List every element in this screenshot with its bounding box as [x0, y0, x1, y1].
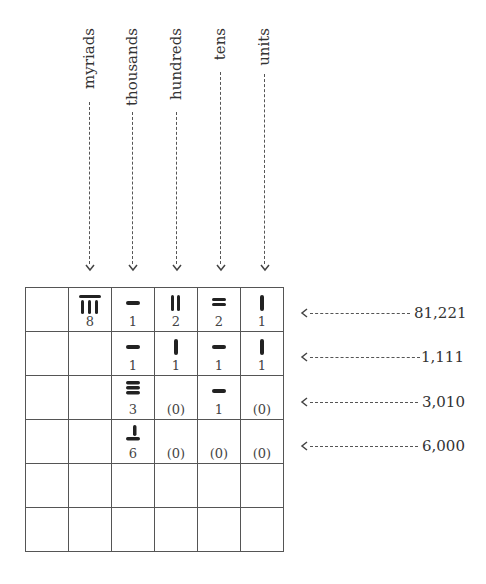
table-row: 8 1 2 2 1	[26, 288, 284, 332]
arrow-left-icon	[300, 308, 310, 318]
grid-cell	[69, 508, 112, 552]
grid-cell: (0)	[198, 420, 241, 464]
digit-label: 1	[155, 359, 197, 375]
digit-label: (0)	[241, 447, 283, 463]
row-value: 81,221	[414, 304, 467, 322]
row-value-pointer: 81,221	[300, 303, 467, 323]
grid-cell: 2	[155, 288, 198, 332]
arrow-down-icon	[260, 262, 270, 272]
grid-cell-label	[26, 464, 69, 508]
digit-label: 1	[112, 359, 154, 375]
grid-cell: (0)	[155, 420, 198, 464]
rod-numeral-1-vertical-icon	[173, 338, 179, 356]
grid-cell: 1	[155, 332, 198, 376]
rod-numeral-1-vertical-icon	[259, 338, 265, 356]
arrow-left-icon	[300, 441, 310, 451]
grid-cell: (0)	[155, 376, 198, 420]
arrow-down-icon	[172, 262, 182, 272]
table-row: 3 (0) 1 (0)	[26, 376, 284, 420]
grid-cell: (0)	[241, 376, 284, 420]
column-label-text: myriads	[80, 28, 98, 89]
column-label-text: hundreds	[167, 28, 185, 100]
grid-cell: 1	[241, 288, 284, 332]
dashed-line	[310, 446, 418, 447]
arrow-left-icon	[300, 397, 310, 407]
grid-cell	[155, 508, 198, 552]
digit-label: (0)	[155, 447, 197, 463]
grid-cell	[155, 464, 198, 508]
grid-cell: 6	[112, 420, 155, 464]
grid-cell: (0)	[241, 420, 284, 464]
table-row: 6 (0) (0) (0)	[26, 420, 284, 464]
grid-cell: 2	[198, 288, 241, 332]
pointer-line-myriads	[89, 102, 90, 264]
row-value: 1,111	[421, 348, 464, 366]
digit-label: 8	[69, 315, 111, 331]
rod-numeral-2-vertical-icon	[170, 294, 182, 312]
counting-board-grid: 8 1 2 2 1 1 1 1	[25, 287, 284, 552]
rod-numeral-1-vertical-icon	[259, 294, 265, 312]
table-row: 1 1 1 1	[26, 332, 284, 376]
grid-cell	[241, 508, 284, 552]
column-label-hundreds: hundreds	[167, 28, 187, 263]
pointer-line-tens	[220, 72, 221, 264]
grid-cell-label	[26, 376, 69, 420]
table-row	[26, 464, 284, 508]
row-value: 3,010	[422, 393, 465, 411]
arrow-down-icon	[216, 262, 226, 272]
grid-cell	[69, 376, 112, 420]
rod-numeral-1-horizontal-icon	[125, 344, 141, 350]
grid-cell	[69, 332, 112, 376]
digit-label: 2	[155, 315, 197, 331]
grid-cell	[241, 464, 284, 508]
grid-cell: 1	[198, 332, 241, 376]
column-label-thousands: thousands	[123, 28, 143, 263]
rod-numeral-8-icon	[78, 294, 102, 316]
table-row	[26, 508, 284, 552]
digit-label: 1	[112, 315, 154, 331]
grid-cell: 8	[69, 288, 112, 332]
rod-numeral-2-horizontal-icon	[211, 297, 227, 307]
row-value-pointer: 3,010	[300, 392, 465, 412]
grid-cell	[198, 464, 241, 508]
grid-cell	[112, 464, 155, 508]
digit-label: 1	[241, 315, 283, 331]
column-label-text: tens	[211, 28, 229, 60]
pointer-line-thousands	[132, 112, 133, 264]
grid-cell: 1	[112, 288, 155, 332]
dashed-line	[310, 402, 418, 403]
grid-cell	[69, 464, 112, 508]
row-value-pointer: 6,000	[300, 436, 465, 456]
digit-label: 1	[198, 403, 240, 419]
column-label-units: units	[255, 28, 275, 263]
digit-label: (0)	[155, 403, 197, 419]
rod-numeral-3-horizontal-icon	[125, 380, 141, 396]
grid-cell-label	[26, 288, 69, 332]
grid-cell	[69, 420, 112, 464]
grid-cell: 1	[198, 376, 241, 420]
grid-cell: 1	[112, 332, 155, 376]
dashed-line	[310, 357, 420, 358]
grid-cell-label	[26, 332, 69, 376]
grid-cell	[198, 508, 241, 552]
row-value: 6,000	[422, 437, 465, 455]
arrow-down-icon	[128, 262, 138, 272]
digit-label: 1	[241, 359, 283, 375]
rod-numeral-1-horizontal-icon	[211, 344, 227, 350]
column-label-text: thousands	[123, 28, 141, 106]
digit-label: (0)	[198, 447, 240, 463]
digit-label: 1	[198, 359, 240, 375]
rod-numeral-6-icon	[125, 424, 141, 442]
pointer-line-units	[264, 74, 265, 264]
column-label-tens: tens	[211, 28, 231, 263]
dashed-line	[310, 313, 410, 314]
row-value-pointer: 1,111	[300, 347, 464, 367]
rod-numeral-1-horizontal-icon	[211, 388, 227, 394]
column-label-myriads: myriads	[80, 28, 100, 263]
grid-cell-label	[26, 508, 69, 552]
grid-cell	[112, 508, 155, 552]
arrow-left-icon	[300, 352, 310, 362]
grid-cell: 3	[112, 376, 155, 420]
pointer-line-hundreds	[176, 112, 177, 264]
column-label-text: units	[255, 28, 273, 66]
